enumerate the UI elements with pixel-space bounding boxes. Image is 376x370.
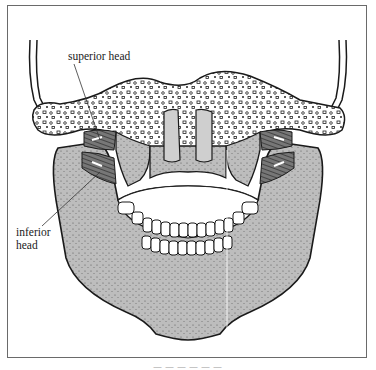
figure-caption: — — — — — — [0, 362, 376, 370]
label-inferior-line2: head [16, 239, 50, 252]
label-inferior-head: inferior head [16, 226, 50, 252]
skull-base [33, 71, 345, 150]
mandible-illustration [0, 0, 376, 370]
label-inferior-line1: inferior [16, 226, 50, 239]
nasal-region [150, 146, 226, 178]
label-superior-head: superior head [68, 50, 130, 63]
